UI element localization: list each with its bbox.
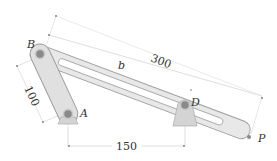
mechanism-diagram: B A D P b 300 100 150 [0,0,277,161]
point-p [247,135,251,139]
label-b-length: b [118,59,125,72]
label-p-point: P [257,132,266,145]
dim-text-300: 300 [149,52,173,72]
pin-d [181,101,190,110]
pin-b [36,50,45,59]
dim-text-100: 100 [21,84,42,109]
label-d-point: D [190,96,200,109]
label-a-point: A [79,107,88,120]
pin-a [64,110,73,119]
diagram-canvas: B A D P b 300 100 150 [0,0,277,161]
dim-text-150: 150 [116,140,137,153]
label-b-point: B [26,38,35,51]
